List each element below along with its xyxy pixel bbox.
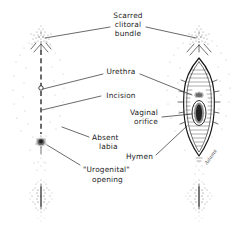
label-absent-labia: Absent labia bbox=[92, 133, 119, 151]
left-panel-drawing bbox=[12, 26, 64, 222]
leader-urethra-right bbox=[140, 74, 192, 95]
left-anal-region bbox=[30, 180, 53, 222]
leader-scarred-clitoral-right bbox=[146, 27, 196, 38]
label-scarred-clitoral-bundle: Scarred clitoral bundle bbox=[113, 11, 143, 38]
anatomical-figure: Scarred clitoral bundle Urethra Incision… bbox=[0, 0, 246, 240]
label-vaginal-orifice-line1: Vaginal bbox=[130, 108, 158, 117]
leader-urogenital-opening bbox=[47, 145, 80, 165]
label-urethra: Urethra bbox=[106, 67, 135, 76]
right-fourchette bbox=[196, 158, 202, 161]
leader-absent-labia bbox=[62, 127, 89, 137]
figure-canvas: Scarred clitoral bundle Urethra Incision… bbox=[0, 0, 246, 240]
right-anal-region bbox=[186, 180, 213, 222]
right-urethra bbox=[194, 92, 204, 99]
right-vaginal-orifice bbox=[192, 101, 206, 126]
label-hymen: Hymen bbox=[126, 152, 153, 161]
label-vaginal-orifice-line2: orifice bbox=[134, 117, 158, 126]
left-perineum-stipple bbox=[37, 158, 46, 171]
label-vaginal-orifice: Vaginal orifice bbox=[130, 108, 158, 126]
right-perineum-stipple bbox=[195, 162, 204, 175]
label-absent-labia-line2: labia bbox=[99, 142, 118, 151]
label-urogenital-opening-line1: "Urogenital" bbox=[83, 165, 130, 174]
leader-scarred-clitoral-left bbox=[45, 27, 110, 38]
right-panel-drawing bbox=[166, 26, 230, 222]
label-scarred-clitoral-bundle-line1: Scarred bbox=[113, 11, 143, 20]
label-urogenital-opening: "Urogenital" opening bbox=[83, 165, 130, 184]
leader-urethra-left bbox=[43, 74, 103, 89]
label-scarred-clitoral-bundle-line3: bundle bbox=[115, 29, 142, 38]
label-incision: Incision bbox=[106, 91, 135, 100]
artist-signature: Adams bbox=[202, 148, 218, 167]
left-scarred-clitoral-bundle bbox=[31, 26, 52, 53]
leader-hymen bbox=[156, 126, 187, 155]
left-urethral-meatus bbox=[39, 86, 43, 90]
left-urogenital-opening bbox=[36, 136, 47, 155]
label-urogenital-opening-line2: opening bbox=[92, 175, 123, 184]
label-scarred-clitoral-bundle-line2: clitoral bbox=[115, 20, 141, 29]
right-scarred-clitoral-bundle bbox=[187, 26, 211, 56]
leader-incision bbox=[42, 96, 101, 110]
label-absent-labia-line1: Absent bbox=[92, 133, 119, 142]
